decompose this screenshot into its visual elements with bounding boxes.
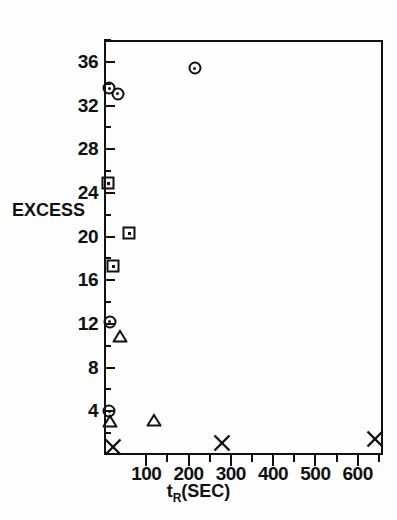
x-tick-minor bbox=[336, 455, 338, 462]
data-point-square bbox=[102, 177, 115, 190]
y-tick-major bbox=[104, 279, 115, 281]
y-tick-minor bbox=[104, 388, 111, 390]
x-tick-minor bbox=[251, 455, 253, 462]
plot-frame bbox=[104, 40, 383, 455]
y-tick-major bbox=[104, 367, 115, 369]
x-tick-minor bbox=[378, 455, 380, 462]
x-tick-minor bbox=[209, 455, 211, 462]
y-tick-major bbox=[104, 236, 115, 238]
data-point-triangle bbox=[113, 329, 128, 343]
y-tick-major bbox=[104, 148, 115, 150]
y-tick-minor bbox=[104, 345, 111, 347]
y-tick-label: 28 bbox=[50, 139, 98, 158]
y-tick-major bbox=[104, 192, 115, 194]
data-point-circle bbox=[188, 62, 201, 75]
data-point-circle bbox=[103, 315, 116, 328]
x-tick-minor bbox=[293, 455, 295, 462]
y-tick-label: 16 bbox=[50, 270, 98, 289]
y-tick-label: 32 bbox=[50, 96, 98, 115]
y-tick-minor bbox=[104, 39, 111, 41]
y-tick-major bbox=[104, 61, 115, 63]
y-tick-minor bbox=[104, 301, 111, 303]
y-tick-minor bbox=[104, 432, 111, 434]
y-tick-minor bbox=[104, 214, 111, 216]
scatter-plot-figure: 3632282420161284 100200300400500600 EXCE… bbox=[0, 0, 397, 520]
data-point-x bbox=[365, 429, 384, 448]
y-tick-minor bbox=[104, 170, 111, 172]
data-point-x bbox=[104, 438, 123, 457]
x-axis-title-unit: (SEC) bbox=[181, 481, 230, 501]
y-tick-label: 12 bbox=[50, 314, 98, 333]
data-point-square bbox=[107, 260, 120, 273]
y-tick-label: 8 bbox=[50, 358, 98, 377]
data-point-circle bbox=[111, 87, 124, 100]
data-point-x bbox=[213, 433, 232, 452]
data-point-triangle bbox=[102, 414, 117, 428]
y-tick-major bbox=[104, 105, 115, 107]
y-tick-label: 36 bbox=[50, 52, 98, 71]
data-point-square bbox=[123, 227, 136, 240]
y-axis-title: EXCESS bbox=[12, 200, 85, 221]
y-tick-label: 4 bbox=[50, 401, 98, 420]
y-tick-minor bbox=[104, 126, 111, 128]
x-tick-minor bbox=[166, 455, 168, 462]
y-tick-label: 20 bbox=[50, 227, 98, 246]
x-axis-title: tR(SEC) bbox=[0, 481, 397, 505]
data-point-triangle bbox=[146, 413, 161, 427]
